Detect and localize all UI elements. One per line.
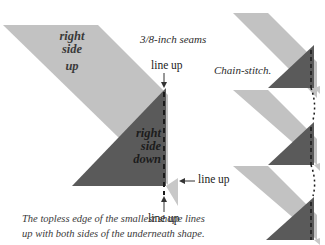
chain-unit-3 [233,166,320,245]
right-side-down-label: right side down [117,127,161,166]
chain-stitch-label: Chain-stitch. [214,64,271,76]
arrow-up-icon [161,196,167,212]
chain-unit-1 [233,13,320,98]
chain-unit-2 [233,90,320,171]
line-up-top-label: line up [151,59,183,71]
sewing-diagram: right side up right side down 3/8-inch s… [0,0,325,245]
chain-stitch-thread-2 [311,165,315,196]
line-up-right-label: line up [198,173,230,185]
label-word: side [52,43,92,56]
arrow-left-icon [179,178,195,184]
caption-line-1: The topless edge of the smallest shape l… [22,211,205,226]
caption: The topless edge of the smallest shape l… [22,211,205,241]
caption-line-2: up with both sides of the underneath sha… [22,226,205,241]
seam-allowance-note: 3/8-inch seams [140,33,206,45]
label-word: up [52,60,92,73]
arrow-down-icon [161,73,167,88]
right-side-up-label: right side up [52,30,92,73]
label-word: down [117,153,161,166]
